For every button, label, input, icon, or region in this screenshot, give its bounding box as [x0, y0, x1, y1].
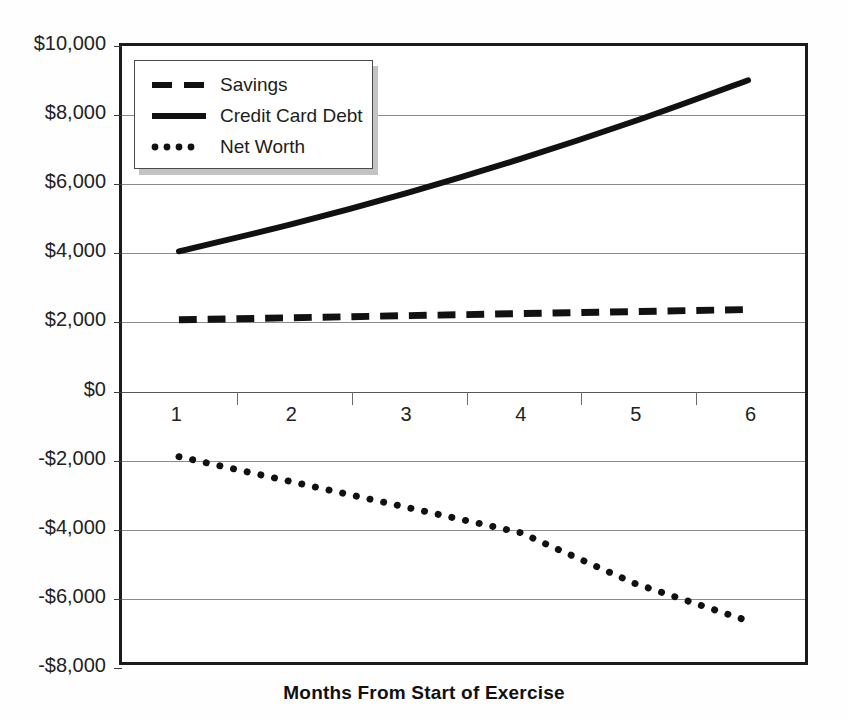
- series-line-net-worth: [179, 457, 748, 621]
- chart-legend: Savings Credit Card Debt Net Worth: [134, 60, 373, 169]
- gridline: [122, 530, 805, 531]
- legend-label-net-worth: Net Worth: [220, 136, 305, 158]
- x-axis-tick-label: 4: [515, 403, 526, 426]
- gridline: [122, 461, 805, 462]
- series-line-savings: [179, 310, 748, 320]
- y-axis-tick: [114, 184, 122, 185]
- x-axis-title: Months From Start of Exercise: [0, 682, 848, 704]
- x-axis-tick: [237, 392, 238, 405]
- y-axis-tick-label: $0: [84, 377, 106, 400]
- chart-figure: $10,000$8,000$6,000$4,000$2,000$0-$2,000…: [0, 0, 848, 721]
- x-axis-tick-label: 3: [401, 403, 412, 426]
- y-axis-tick: [114, 392, 122, 393]
- legend-label-savings: Savings: [220, 74, 288, 96]
- y-axis-tick-label: -$2,000: [38, 446, 106, 469]
- x-axis-tick-label: 6: [745, 403, 756, 426]
- x-axis-tick: [696, 392, 697, 405]
- y-axis-tick-label: -$6,000: [38, 584, 106, 607]
- y-axis-tick-label: $10,000: [34, 32, 106, 55]
- y-axis-tick: [114, 322, 122, 323]
- y-axis-tick: [114, 530, 122, 531]
- legend-key-solid-icon: [150, 109, 208, 123]
- legend-key-dotted-icon: [150, 140, 208, 154]
- gridline: [122, 392, 805, 393]
- y-axis-tick: [114, 253, 122, 254]
- y-axis-tick-label: $6,000: [45, 170, 106, 193]
- y-axis-tick-label: $2,000: [45, 308, 106, 331]
- y-axis-tick: [114, 599, 122, 600]
- x-axis-tick-label: 2: [286, 403, 297, 426]
- x-axis-tick: [581, 392, 582, 405]
- legend-label-credit-card-debt: Credit Card Debt: [220, 105, 363, 127]
- legend-item-net-worth: Net Worth: [135, 131, 372, 162]
- legend-item-savings: Savings: [135, 69, 372, 100]
- gridline: [122, 253, 805, 254]
- gridline: [122, 322, 805, 323]
- legend-item-credit-card-debt: Credit Card Debt: [135, 100, 372, 131]
- y-axis-tick: [114, 46, 122, 47]
- y-axis-tick-label: -$8,000: [38, 654, 106, 677]
- x-axis-tick: [352, 392, 353, 405]
- y-axis-tick: [114, 461, 122, 462]
- y-axis-tick: [114, 668, 122, 669]
- y-axis-tick: [114, 115, 122, 116]
- x-axis-tick-label: 1: [171, 403, 182, 426]
- legend-key-dashed-icon: [150, 78, 208, 92]
- x-axis-tick-label: 5: [630, 403, 641, 426]
- y-axis-tick-label: $4,000: [45, 239, 106, 262]
- y-axis-tick-label: -$4,000: [38, 515, 106, 538]
- gridline: [122, 184, 805, 185]
- y-axis-tick-label: $8,000: [45, 101, 106, 124]
- x-axis-tick: [467, 392, 468, 405]
- gridline: [122, 599, 805, 600]
